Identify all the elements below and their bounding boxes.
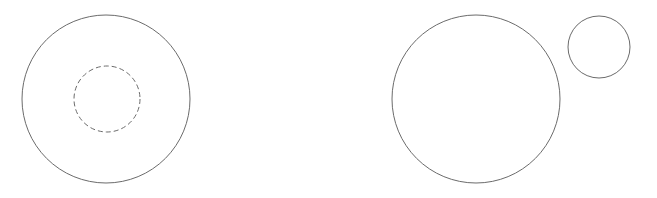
figure-canvas: Large solid outline circle containing a …	[0, 0, 657, 198]
right-panel	[392, 15, 630, 183]
left-panel	[22, 15, 190, 183]
circle-diagram-svg	[0, 0, 657, 198]
small-circle	[568, 16, 630, 78]
large-circle	[392, 15, 560, 183]
outer-circle	[22, 15, 190, 183]
inner-dashed-circle	[74, 66, 140, 132]
